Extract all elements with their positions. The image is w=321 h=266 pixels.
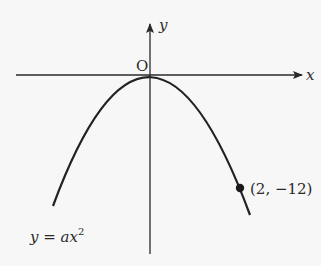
point-label: (2, −12)	[250, 180, 312, 198]
y-axis-label: y	[158, 16, 168, 34]
origin-label: O	[136, 57, 148, 75]
x-axis-label: x	[306, 66, 315, 84]
equation-label: y = ax2	[29, 226, 84, 246]
equation-text: y = ax	[29, 228, 79, 246]
point-marker	[236, 184, 244, 192]
equation-exponent: 2	[78, 226, 84, 237]
parabola-curve	[53, 77, 250, 215]
parabola-diagram: y x O (2, −12) y = ax2	[0, 0, 321, 266]
